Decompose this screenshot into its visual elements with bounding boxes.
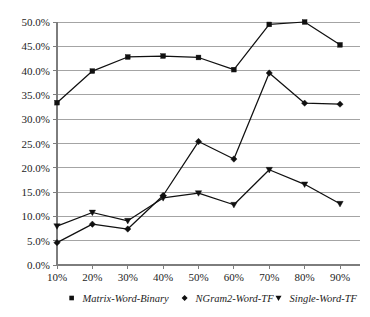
legend-marker-triangle-down-icon (275, 296, 281, 301)
legend-item[interactable]: NGram2-Word-TF (182, 293, 275, 304)
data-point-marker (231, 202, 237, 208)
y-axis-tick-label: 20.0% (22, 162, 50, 174)
line-chart: 0.0%5.0%10.0%15.0%20.0%25.0%30.0%35.0%40… (0, 0, 370, 317)
data-point-marker (89, 221, 95, 227)
y-axis-tick-label: 40.0% (22, 65, 50, 77)
series-ngram2-word-tf (54, 70, 343, 246)
series-single-word-tf (54, 167, 343, 229)
legend-marker-diamond-icon (182, 295, 188, 301)
legend-marker-square-icon (69, 296, 74, 301)
x-axis-ticks: 10%20%30%40%50%60%70%80%90% (47, 265, 350, 283)
x-axis-tick-label: 90% (330, 271, 350, 283)
legend: Matrix-Word-BinaryNGram2-Word-TFSingle-W… (69, 293, 357, 304)
series-line (57, 22, 340, 103)
data-point-marker (231, 156, 237, 162)
legend-label: NGram2-Word-TF (195, 293, 275, 304)
legend-item[interactable]: Matrix-Word-Binary (69, 293, 169, 304)
data-point-marker (302, 20, 307, 25)
y-axis-tick-label: 30.0% (22, 113, 50, 125)
y-axis-tick-label: 45.0% (22, 40, 50, 52)
x-axis-tick-label: 10% (47, 271, 67, 283)
data-point-marker (267, 22, 272, 27)
data-point-marker (125, 218, 131, 224)
data-point-marker (337, 201, 343, 207)
x-axis-tick-label: 30% (118, 271, 138, 283)
legend-item[interactable]: Single-Word-TF (275, 293, 357, 304)
y-axis-tick-label: 35.0% (22, 89, 50, 101)
data-point-marker (231, 67, 236, 72)
data-point-marker (338, 42, 343, 47)
y-axis-tick-label: 50.0% (22, 16, 50, 28)
series-matrix-word-binary (55, 20, 343, 105)
y-axis-tick-label: 5.0% (27, 235, 50, 247)
legend-label: Matrix-Word-Binary (82, 293, 169, 304)
x-axis-tick-label: 60% (224, 271, 244, 283)
data-point-marker (125, 55, 130, 60)
data-point-marker (90, 69, 95, 74)
x-axis-tick-label: 20% (82, 271, 102, 283)
y-axis-tick-label: 25.0% (22, 138, 50, 150)
series-line (57, 73, 340, 243)
y-axis-tick-label: 15.0% (22, 186, 50, 198)
series-line (57, 170, 340, 226)
legend-label: Single-Word-TF (289, 293, 357, 304)
data-point-marker (196, 55, 201, 60)
y-axis-tick-label: 10.0% (22, 210, 50, 222)
chart-container: 0.0%5.0%10.0%15.0%20.0%25.0%30.0%35.0%40… (0, 0, 370, 317)
x-axis-tick-label: 50% (188, 271, 208, 283)
x-axis-tick-label: 70% (259, 271, 279, 283)
data-point-marker (55, 100, 60, 105)
x-axis-tick-label: 80% (295, 271, 315, 283)
data-point-marker (337, 101, 343, 107)
data-point-marker (161, 54, 166, 59)
x-axis-tick-label: 40% (153, 271, 173, 283)
gridlines: 0.0%5.0%10.0%15.0%20.0%25.0%30.0%35.0%40… (22, 16, 360, 271)
y-axis-tick-label: 0.0% (27, 259, 50, 271)
data-point-marker (54, 224, 60, 230)
data-point-marker (301, 182, 307, 188)
